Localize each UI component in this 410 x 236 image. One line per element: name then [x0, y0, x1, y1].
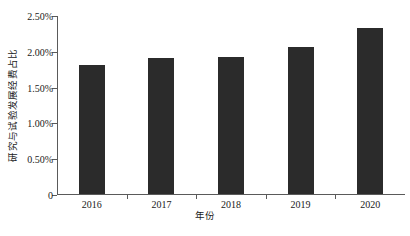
bar-2018	[218, 57, 244, 194]
y-axis-title: 研究与试验发展经费占比	[5, 25, 19, 185]
y-tick-label: 0	[48, 190, 53, 201]
x-axis-title: 年份	[0, 208, 410, 222]
y-tick-label: 1.00%	[27, 118, 53, 129]
y-axis-line	[57, 16, 58, 195]
x-tick-mark	[196, 195, 197, 199]
bar-2019	[288, 47, 314, 194]
bar-2016	[79, 65, 105, 194]
plot-area: 00.50%1.00%1.50%2.00%2.50% 2016201720182…	[57, 16, 405, 195]
y-tick-label: 2.50%	[27, 11, 53, 22]
y-tick-label: 1.50%	[27, 82, 53, 93]
y-tick-label: 2.00%	[27, 46, 53, 57]
bar-chart-figure: 研究与试验发展经费占比 00.50%1.00%1.50%2.00%2.50% 2…	[0, 0, 410, 236]
x-tick-mark	[127, 195, 128, 199]
y-tick-label: 0.50%	[27, 154, 53, 165]
bar-2020	[357, 28, 383, 194]
x-axis-line	[57, 194, 405, 195]
x-tick-mark	[266, 195, 267, 199]
x-tick-mark	[335, 195, 336, 199]
bar-2017	[148, 58, 174, 194]
